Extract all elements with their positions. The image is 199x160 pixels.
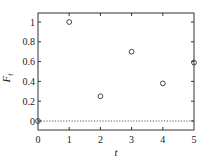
scatter-chart: 0 1 2 3 4 5 0 0.2 0.4 0.6 0.8 1 t Ft [0, 0, 199, 160]
plot-frame [38, 13, 194, 130]
y-tick-label: 0.4 [23, 76, 36, 87]
y-tick-label: 0 [30, 116, 35, 127]
x-axis-ticks [69, 13, 163, 130]
y-axis-label-sub: t [6, 73, 15, 76]
y-axis-label: Ft [0, 73, 15, 84]
x-tick-label: 5 [192, 134, 197, 145]
x-tick-labels: 0 1 2 3 4 5 [36, 134, 197, 145]
data-point [67, 20, 72, 25]
data-points [36, 20, 197, 124]
x-tick-label: 3 [129, 134, 134, 145]
y-tick-label: 0.2 [23, 96, 36, 107]
x-tick-label: 1 [67, 134, 72, 145]
y-tick-label: 1 [30, 17, 35, 28]
data-point [98, 94, 103, 99]
y-tick-label: 0.6 [23, 56, 36, 67]
data-point [160, 81, 165, 86]
x-axis-label: t [114, 146, 118, 158]
y-tick-labels: 0 0.2 0.4 0.6 0.8 1 [23, 17, 36, 127]
y-axis-ticks [38, 22, 194, 121]
x-tick-label: 0 [36, 134, 41, 145]
x-tick-label: 2 [98, 134, 103, 145]
svg-text:Ft: Ft [0, 73, 15, 84]
x-tick-label: 4 [160, 134, 165, 145]
data-point [129, 49, 134, 54]
y-tick-label: 0.8 [23, 36, 36, 47]
